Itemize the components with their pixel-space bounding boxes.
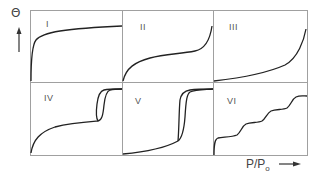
panel-label-IV: IV [44, 93, 54, 103]
curve-type-V-desorption [178, 89, 213, 141]
panel-label-VI: VI [227, 96, 237, 106]
panel-label-II: II [140, 22, 146, 32]
curve-type-II [123, 26, 212, 81]
x-axis-label: P/Po [246, 157, 270, 173]
x-axis-label-sub: o [265, 164, 269, 173]
y-axis-label: Θ [11, 6, 20, 20]
panel-label-III: III [229, 22, 238, 32]
curve-type-I [31, 26, 122, 81]
x-axis-label-main: P/P [246, 157, 265, 171]
panel-grid [31, 11, 308, 156]
x-axis-arrow-icon [279, 162, 301, 167]
curve-type-IV-desorption [96, 89, 122, 121]
panel-label-I: I [46, 19, 49, 29]
y-axis-arrow-icon [17, 27, 22, 52]
panel-label-V: V [135, 96, 142, 106]
curve-type-III [214, 29, 306, 81]
